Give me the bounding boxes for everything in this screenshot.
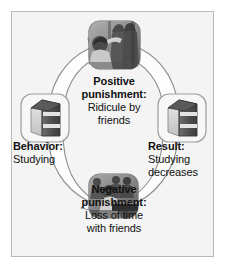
label-result: Result: Studying decreases	[148, 140, 214, 179]
positive-heading-line2: punishment:	[58, 88, 170, 101]
positive-heading-line1: Positive	[58, 75, 170, 88]
photo-people-laughing	[88, 21, 140, 69]
negative-heading-line2: punishment:	[58, 196, 170, 209]
negative-body-line1: Loss of time	[58, 209, 170, 222]
behavior-heading: Behavior:	[13, 140, 83, 153]
behavior-body: Studying	[13, 153, 83, 166]
diagram-frame: Positive punishment: Ridicule by friends…	[11, 11, 214, 257]
label-positive-punishment: Positive punishment: Ridicule by friends	[58, 75, 170, 126]
positive-body-line2: friends	[58, 114, 170, 127]
result-heading: Result:	[148, 140, 214, 153]
result-body-line2: decreases	[148, 166, 214, 179]
figure-root: Positive punishment: Ridicule by friends…	[0, 0, 227, 270]
positive-body-line1: Ridicule by	[58, 101, 170, 114]
negative-body-line2: with friends	[58, 222, 170, 235]
label-behavior: Behavior: Studying	[13, 140, 83, 166]
result-body-line1: Studying	[148, 153, 214, 166]
negative-heading-line1: Negative	[58, 183, 170, 196]
label-negative-punishment: Negative punishment: Loss of time with f…	[58, 183, 170, 234]
